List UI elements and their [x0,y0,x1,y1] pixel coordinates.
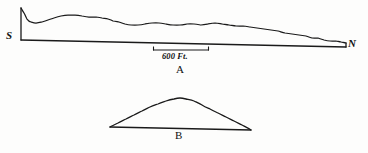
scale-bar-label: 600 Ft. [162,52,188,61]
figure-canvas [0,0,368,153]
panel-a-caption: A [176,64,184,75]
figure-root: S N 600 Ft. A B [0,0,368,153]
panel-a-baseline [21,40,346,47]
panel-a-south-label: S [6,30,12,41]
panel-b-caption: B [175,130,182,141]
panel-a-terrain-profile-line [21,8,346,43]
panel-a-north-label: N [348,38,356,49]
scale-bar [153,47,209,51]
panel-b-mound-outline [110,98,251,130]
panel-a-group [21,8,346,51]
panel-b-group [110,98,251,130]
